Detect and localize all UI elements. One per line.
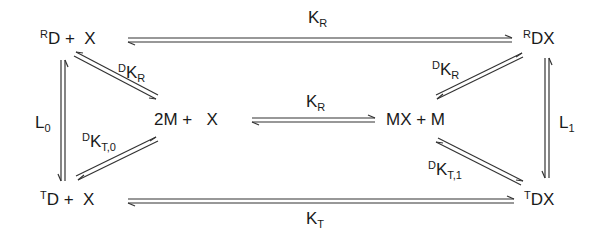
right-vertical-arrow (542, 58, 552, 178)
constant-KT-bottom: KT (306, 209, 324, 229)
constant-DKT0-lower-left: DKT,0 (82, 132, 116, 152)
species-RD-plus-X: RD + X (40, 29, 96, 49)
constant-DKR-upper-left: DKR (118, 63, 145, 83)
bottom-equilibrium-arrow (128, 196, 514, 206)
constant-DKT1-lower-right: DKT,1 (428, 160, 462, 180)
species-TD-plus-X: TD + X (40, 190, 94, 210)
upper-left-diagonal-arrow (74, 52, 158, 99)
top-equilibrium-arrow (128, 35, 512, 45)
constant-L1: L1 (559, 113, 575, 133)
species-MX-plus-M: MX + M (386, 110, 445, 130)
constant-DKR-upper-right: DKR (432, 60, 459, 80)
middle-equilibrium-arrow (252, 115, 375, 125)
species-RDX: RDX (523, 29, 555, 49)
constant-KR-middle: KR (306, 92, 325, 112)
left-vertical-arrow (58, 60, 68, 181)
constant-KR-top: KR (308, 8, 327, 28)
species-2M-plus-X: 2M + X (154, 110, 218, 130)
species-TDX: TDX (524, 190, 554, 210)
constant-L0: L0 (35, 113, 51, 133)
